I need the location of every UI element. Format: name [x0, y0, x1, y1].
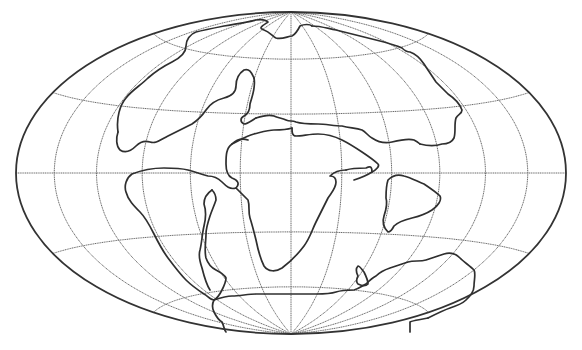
africa-south-america-outline	[125, 128, 292, 300]
tethys-south-shore-outline	[292, 128, 379, 172]
parallel-line	[154, 34, 429, 60]
graticule-grid	[16, 12, 566, 334]
world-map	[0, 0, 582, 350]
eurasia-north-outline	[312, 26, 462, 146]
landmass-outlines	[117, 20, 475, 332]
north-america-south-coast-outline	[117, 70, 254, 152]
